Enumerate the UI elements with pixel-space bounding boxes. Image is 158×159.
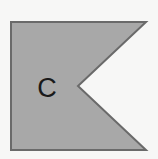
guidon-letter-c: C: [37, 73, 57, 103]
guidon-canvas: C: [0, 0, 158, 159]
guidon-graphic: C: [0, 0, 158, 159]
